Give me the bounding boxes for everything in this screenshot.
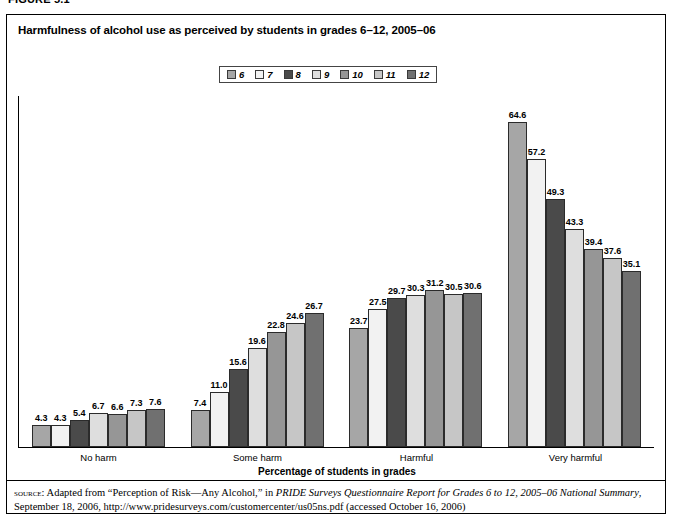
source-text-a: Adapted from “Perception of Risk—Any Alc… — [45, 487, 276, 498]
bar-grade-11 — [127, 410, 146, 447]
x-axis-line — [18, 447, 654, 448]
bar-group-no-harm: 4.34.35.46.76.67.37.6 — [19, 96, 178, 447]
bar-column: 35.1 — [622, 96, 641, 447]
bar-grade-7 — [210, 392, 229, 447]
source-text-b: , — [639, 487, 642, 498]
bar-group-inner: 64.657.249.343.339.437.635.1 — [508, 96, 641, 447]
bar-column: 30.5 — [444, 96, 463, 447]
category-label-harmful: Harmful — [337, 452, 496, 463]
bar-grade-10 — [267, 332, 286, 447]
bar-grade-8 — [387, 298, 406, 447]
bar-value-label: 22.8 — [267, 321, 285, 330]
bar-value-label: 30.6 — [464, 282, 482, 291]
category-label-some-harm: Some harm — [178, 452, 337, 463]
bar-group-inner: 7.411.015.619.622.824.626.7 — [191, 96, 324, 447]
bar-grade-8 — [546, 199, 565, 447]
bar-column: 6.6 — [108, 96, 127, 447]
bar-column: 57.2 — [527, 96, 546, 447]
bar-value-label: 39.4 — [585, 238, 603, 247]
legend-swatch-icon — [340, 70, 349, 79]
bar-value-label: 64.6 — [509, 111, 527, 120]
bar-value-label: 26.7 — [305, 302, 323, 311]
bar-group-harmful: 23.727.529.730.331.230.530.6 — [337, 96, 496, 447]
legend-item-grade-11: 11 — [374, 70, 396, 80]
bar-grade-6 — [508, 122, 527, 447]
bar-grade-7 — [51, 425, 70, 447]
bar-grade-9 — [565, 229, 584, 447]
bar-grade-12 — [463, 293, 482, 447]
bar-column: 26.7 — [305, 96, 324, 447]
bar-grade-9 — [248, 348, 267, 447]
bar-column: 4.3 — [32, 96, 51, 447]
legend-label: 7 — [267, 70, 272, 80]
bar-column: 4.3 — [51, 96, 70, 447]
bar-value-label: 43.3 — [566, 218, 584, 227]
bar-grade-12 — [146, 409, 165, 447]
bar-value-label: 31.2 — [426, 279, 444, 288]
legend-label: 9 — [324, 70, 329, 80]
bar-column: 30.6 — [463, 96, 482, 447]
bar-grade-12 — [305, 313, 324, 447]
bar-grade-10 — [108, 414, 127, 447]
bar-column: 11.0 — [210, 96, 229, 447]
bar-grade-9 — [89, 413, 108, 447]
bar-grade-11 — [603, 258, 622, 447]
plot-area: 4.34.35.46.76.67.37.67.411.015.619.622.8… — [18, 96, 654, 448]
legend-swatch-icon — [255, 70, 264, 79]
legend-item-grade-6: 6 — [227, 70, 244, 80]
legend-swatch-icon — [407, 70, 416, 79]
bar-value-label: 7.3 — [130, 399, 143, 408]
legend-item-grade-8: 8 — [284, 70, 301, 80]
bar-value-label: 5.4 — [73, 409, 86, 418]
legend-swatch-icon — [312, 70, 321, 79]
bar-column: 7.4 — [191, 96, 210, 447]
legend-label: 11 — [386, 70, 396, 80]
bar-column: 27.5 — [368, 96, 387, 447]
figure-number-label: FIGURE 5.1 — [8, 0, 70, 5]
chart-title: Harmfulness of alcohol use as perceived … — [18, 24, 436, 36]
bar-grade-10 — [425, 290, 444, 447]
bar-column: 49.3 — [546, 96, 565, 447]
bar-grade-9 — [406, 295, 425, 447]
bar-column: 31.2 — [425, 96, 444, 447]
bar-grade-11 — [444, 294, 463, 447]
legend-swatch-icon — [227, 70, 236, 79]
bar-groups: 4.34.35.46.76.67.37.67.411.015.619.622.8… — [19, 96, 654, 447]
legend-label: 8 — [296, 70, 301, 80]
bar-value-label: 7.6 — [149, 398, 162, 407]
legend-item-grade-7: 7 — [255, 70, 272, 80]
source-title-italic: PRIDE Surveys Questionnaire Report for G… — [276, 487, 639, 498]
bar-grade-8 — [229, 369, 248, 447]
source-prefix: source: — [14, 487, 45, 498]
bar-grade-6 — [349, 328, 368, 447]
bar-value-label: 19.6 — [248, 337, 266, 346]
bar-grade-11 — [286, 323, 305, 447]
bar-column: 15.6 — [229, 96, 248, 447]
bar-value-label: 49.3 — [547, 188, 565, 197]
figure-page: FIGURE 5.1 Harmfulness of alcohol use as… — [0, 0, 674, 522]
legend-label: 6 — [239, 70, 244, 80]
legend-label: 10 — [352, 70, 363, 80]
source-divider — [7, 480, 665, 481]
bar-value-label: 11.0 — [211, 381, 228, 390]
bar-grade-8 — [70, 420, 89, 447]
bar-value-label: 6.7 — [92, 402, 105, 411]
category-label-very-harmful: Very harmful — [496, 452, 655, 463]
bar-value-label: 27.5 — [369, 298, 387, 307]
bar-grade-7 — [368, 309, 387, 447]
bar-column: 29.7 — [387, 96, 406, 447]
bar-value-label: 4.3 — [35, 414, 48, 423]
bar-grade-12 — [622, 271, 641, 448]
bar-value-label: 30.3 — [407, 284, 425, 293]
bar-value-label: 4.3 — [54, 414, 67, 423]
bar-value-label: 35.1 — [623, 260, 641, 269]
legend-item-grade-10: 10 — [340, 70, 363, 80]
category-axis-labels: No harmSome harmHarmfulVery harmful — [19, 452, 655, 463]
legend-item-grade-9: 9 — [312, 70, 329, 80]
bar-value-label: 29.7 — [388, 287, 406, 296]
chart-legend: 6789101112 — [219, 66, 437, 83]
bar-grade-7 — [527, 159, 546, 447]
bar-column: 19.6 — [248, 96, 267, 447]
bar-group-very-harmful: 64.657.249.343.339.437.635.1 — [495, 96, 654, 447]
bar-value-label: 24.6 — [286, 312, 304, 321]
